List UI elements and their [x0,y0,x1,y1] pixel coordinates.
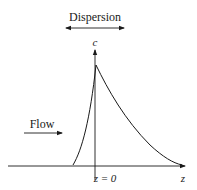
concentration-curve [73,65,182,165]
dispersion-label: Dispersion [69,10,121,24]
flow-label: Flow [30,117,55,131]
position-axis-label: z [180,172,186,184]
concentration-axis-label: c [93,36,98,48]
origin-label: z = 0 [93,172,117,184]
dispersion-diagram: Dispersion c Flow z = 0 z [0,0,197,190]
